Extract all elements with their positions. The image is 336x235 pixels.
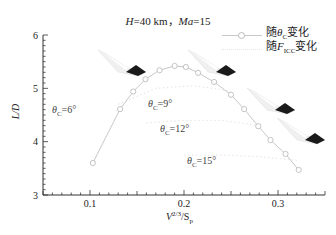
data-point-marker [172,63,177,68]
legend-dotted-line-icon [222,44,262,54]
title-ma: Ma [179,15,194,27]
vehicle-icon [277,118,325,144]
x-tick-label: 0.3 [272,198,285,209]
ficc-dotted-line [118,86,231,105]
vehicle-icon [247,88,295,114]
x-tick-label: 0.2 [178,198,191,209]
data-point-marker [183,64,188,69]
data-point-marker [211,79,216,84]
title-h: H [126,15,134,27]
data-point-marker [268,137,273,142]
x-tick-label: 0.1 [84,198,97,209]
legend-line-marker-icon [222,30,262,40]
annotation-theta-12: θC=12° [160,123,189,137]
y-tick-label: 4 [33,136,38,147]
x-axis-label: V2/3/Sp [166,210,193,225]
data-point-marker [242,107,247,112]
y-axis-label: L/D [10,104,21,120]
annotation-theta-6: θC=6° [52,104,76,118]
vehicle-shapes [98,50,325,144]
data-point-marker [157,68,162,73]
annotation-theta-9: θC=9° [148,98,172,112]
data-point-marker [90,160,95,165]
ficc-curves [118,86,297,161]
data-point-marker [228,92,233,97]
annotation-theta-15: θC=15° [187,155,216,169]
data-point-marker [196,70,201,75]
title-h-value: =40 km， [134,15,179,27]
legend-item-ficc: 随FICC变化 [222,42,317,56]
data-point-marker [283,151,288,156]
legend: 随θC变化 随FICC变化 [222,28,317,56]
data-point-marker [256,124,261,129]
vehicle-icon [98,50,146,76]
data-point-marker [296,167,301,172]
y-tick-label: 3 [33,190,38,201]
data-point-marker [117,107,122,112]
data-point-marker [143,77,148,82]
legend-label-ficc: 随FICC变化 [266,40,317,58]
data-point-marker [131,89,136,94]
title-ma-value: =15 [193,15,210,27]
y-tick-label: 6 [33,30,38,41]
y-tick-label: 5 [33,83,38,94]
